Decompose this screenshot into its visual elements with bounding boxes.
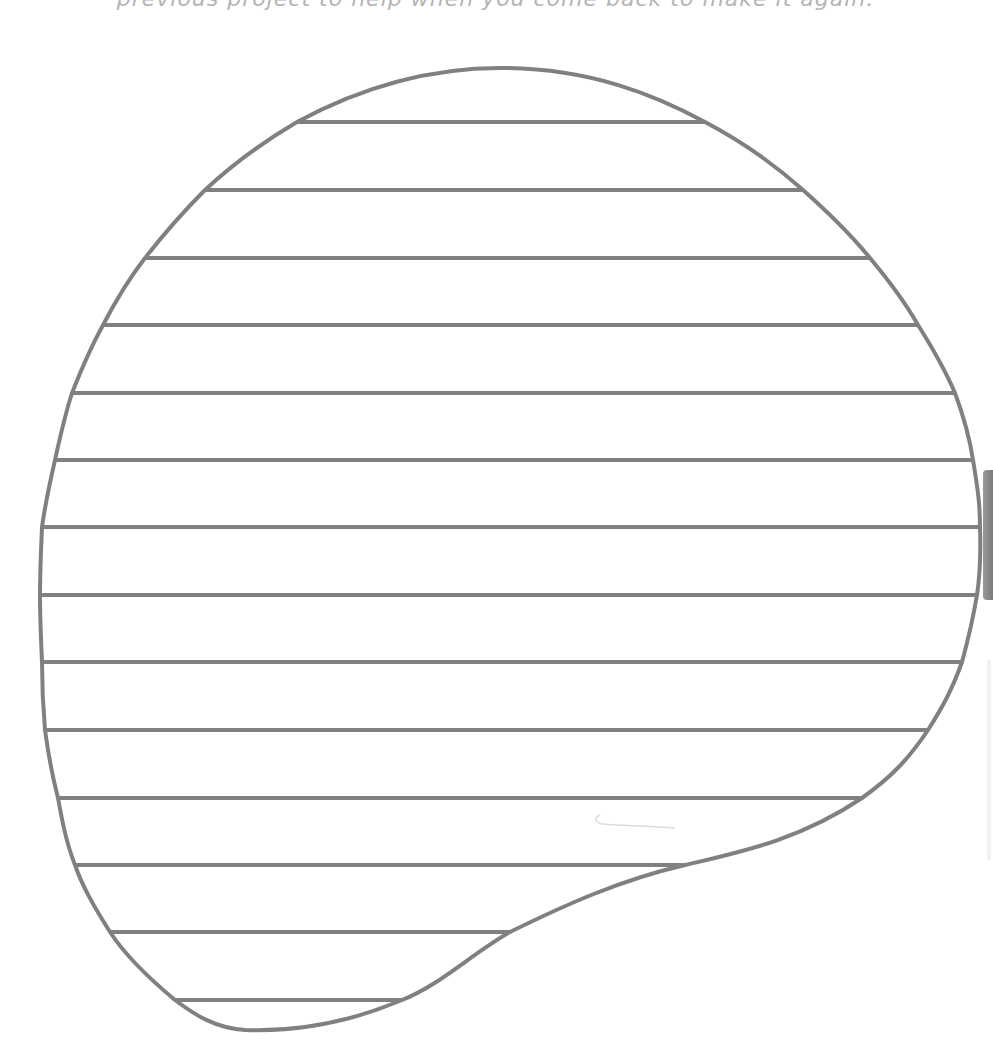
faint-pencil-mark xyxy=(596,815,675,828)
page-edge-shadow xyxy=(983,470,993,600)
page-edge-faint xyxy=(987,660,991,860)
blob-outline xyxy=(40,68,980,1030)
